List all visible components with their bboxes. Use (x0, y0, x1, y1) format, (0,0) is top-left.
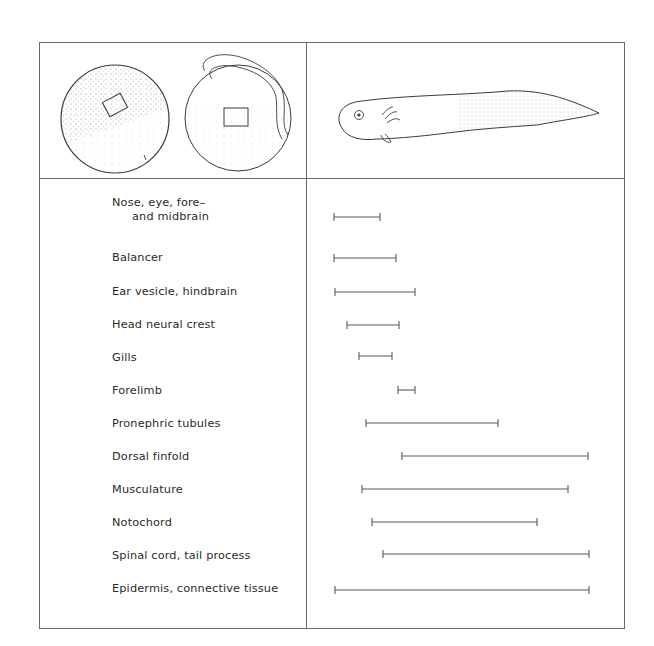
range-bars (0, 0, 654, 646)
range-bar (402, 452, 588, 460)
range-bar (334, 254, 396, 262)
range-bar (366, 419, 498, 427)
range-bar (359, 352, 392, 360)
range-bar (335, 586, 589, 594)
range-bar (362, 485, 568, 493)
range-bar (347, 321, 399, 329)
range-bar (372, 518, 537, 526)
range-bar (335, 288, 415, 296)
range-bar (334, 213, 380, 221)
range-bar (383, 550, 589, 558)
range-bar (398, 386, 415, 394)
